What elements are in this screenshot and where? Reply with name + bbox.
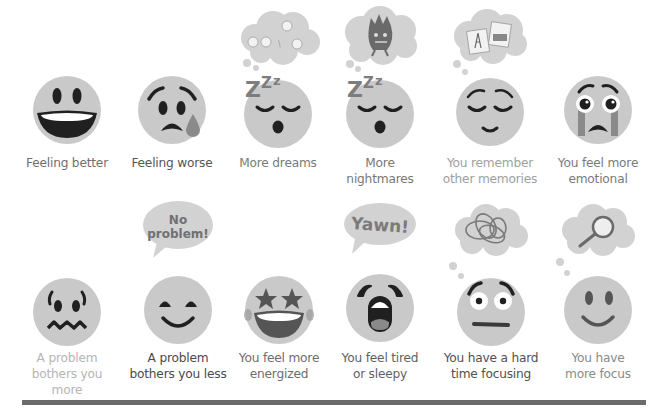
label-feeling-worse: Feeling worse [117, 155, 227, 171]
bottom-divider-bar [22, 400, 646, 405]
magnifier-thought-cloud [556, 204, 635, 276]
yawn-speech-bubble: Yawn! [344, 203, 416, 254]
label-problem-bothers-more: A problem bothers you more [12, 350, 122, 398]
content-memories-face-icon [435, 0, 545, 150]
no-problem-speech-bubble: No problem! [143, 201, 213, 258]
label-more-focus: You have more focus [543, 350, 650, 382]
card-feeling-better: Feeling better [12, 0, 122, 171]
card-feel-emotional: You feel more emotional [543, 0, 650, 187]
label-more-dreams: More dreams [223, 155, 333, 171]
svg-text:z: z [375, 73, 383, 88]
sleeping-monster-dream-icon: Z Z z [325, 0, 435, 150]
confused-face-icon [436, 200, 546, 350]
card-hard-time-focusing: You have a hard time focusing [436, 200, 546, 382]
card-feel-energized: You feel more energized [224, 200, 334, 382]
svg-text:Z: Z [347, 77, 363, 102]
focused-smile-face-icon [543, 200, 650, 350]
label-feel-emotional: You feel more emotional [543, 155, 650, 187]
label-more-nightmares: More nightmares [325, 155, 435, 187]
label-hard-time-focusing: You have a hard time focusing [436, 350, 546, 382]
sleeping-sheep-dream-icon: \ Z Z z [223, 0, 333, 150]
svg-text:Z: Z [363, 74, 374, 92]
svg-text:problem!: problem! [147, 227, 209, 241]
sad-sweat-face-icon [117, 0, 227, 150]
grinning-face-icon [12, 0, 122, 150]
svg-text:Z: Z [245, 77, 261, 102]
svg-text:Z: Z [261, 74, 272, 92]
card-more-focus: You have more focus [543, 200, 650, 382]
label-remember-memories: You remember other memories [435, 155, 545, 187]
card-problem-bothers-less: No problem! A problem bothers you less [123, 200, 233, 382]
label-feel-energized: You feel more energized [224, 350, 334, 382]
card-remember-memories: You remember other memories [435, 0, 545, 187]
happy-face-icon: No problem! [123, 200, 233, 350]
anxious-face-icon [12, 200, 122, 350]
svg-text:No: No [169, 213, 187, 227]
yawning-face-icon: Yawn! [325, 200, 435, 350]
card-feel-tired: Yawn! You feel tired or sleepy [325, 200, 435, 382]
label-feel-tired: You feel tired or sleepy [325, 350, 435, 382]
card-more-dreams: \ Z Z z More dreams [223, 0, 333, 171]
label-feeling-better: Feeling better [12, 155, 122, 171]
crying-face-icon [543, 0, 650, 150]
card-more-nightmares: Z Z z More nightmares [325, 0, 435, 187]
card-problem-bothers-more: A problem bothers you more [12, 200, 122, 398]
card-feeling-worse: Feeling worse [117, 0, 227, 171]
label-problem-bothers-less: A problem bothers you less [123, 350, 233, 382]
svg-text:Yawn!: Yawn! [350, 213, 410, 237]
svg-text:z: z [273, 73, 281, 88]
star-eyes-face-icon [224, 200, 334, 350]
svg-text:\: \ [278, 40, 281, 49]
